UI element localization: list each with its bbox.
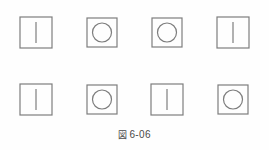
shape-cell-r1c4 (215, 15, 251, 49)
square-with-circle-icon (217, 84, 249, 115)
shape-cell-r2c2 (84, 82, 120, 116)
square-with-circle-icon (86, 17, 118, 48)
shape-cell-r1c1 (18, 15, 54, 49)
shape-row-2 (0, 79, 269, 119)
shape-cell-r2c3 (149, 82, 185, 116)
figure-caption-glyph: 図 (118, 128, 127, 141)
shape-cell-r1c3 (149, 15, 185, 49)
square-with-vertical-line-icon (216, 16, 250, 49)
square-with-circle-icon (151, 17, 183, 48)
shape-cell-r2c1 (18, 82, 54, 116)
figure-panel: 図6-06 (0, 0, 269, 150)
square-with-vertical-line-icon (150, 83, 184, 116)
square-with-vertical-line-icon (19, 16, 53, 49)
shape-cell-r2c4 (215, 82, 251, 116)
shape-row-1 (0, 12, 269, 52)
shape-cell-r1c2 (84, 15, 120, 49)
square-with-vertical-line-icon (19, 83, 53, 116)
square-with-circle-icon (86, 84, 118, 115)
figure-caption: 図6-06 (0, 128, 269, 141)
figure-caption-number: 6-06 (129, 129, 151, 140)
